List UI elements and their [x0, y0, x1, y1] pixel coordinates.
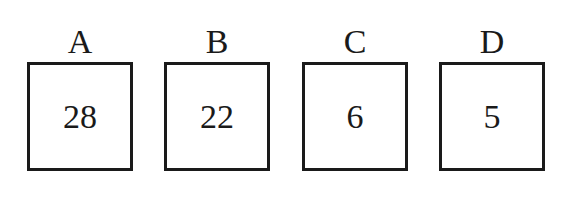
box-label: D: [439, 24, 545, 60]
box-value: 5: [484, 98, 501, 136]
box-label: A: [27, 24, 133, 60]
box-label: C: [302, 24, 408, 60]
box-value: 28: [63, 98, 97, 136]
value-box: 22: [164, 62, 270, 171]
value-box: 5: [439, 62, 545, 171]
box-value: 6: [347, 98, 364, 136]
value-box: 28: [27, 62, 133, 171]
box-value: 22: [200, 98, 234, 136]
value-box: 6: [302, 62, 408, 171]
box-label: B: [164, 24, 270, 60]
